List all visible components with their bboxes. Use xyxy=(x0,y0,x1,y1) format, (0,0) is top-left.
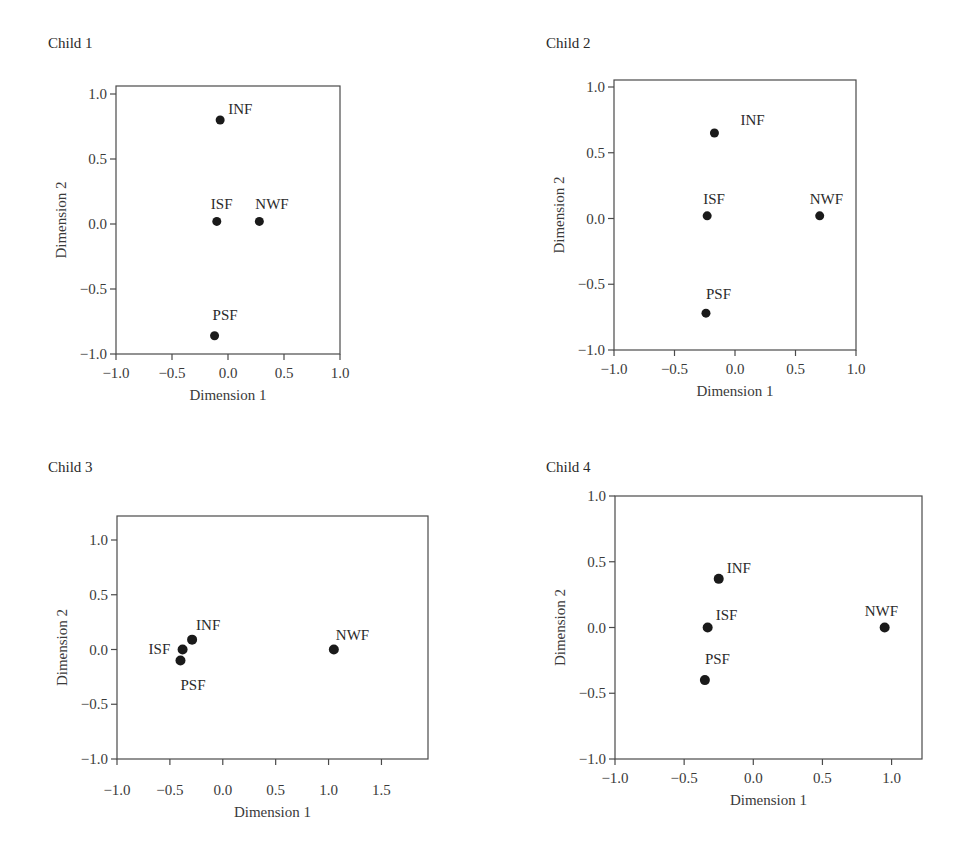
chart-panel-2: Child 2−1.0−0.50.00.51.0−1.0−0.50.00.51.… xyxy=(546,35,865,399)
panel-title: Child 1 xyxy=(48,35,93,51)
y-tick-label: 1.0 xyxy=(586,79,605,95)
data-point-inf xyxy=(710,129,719,138)
x-tick-label: 0.0 xyxy=(213,782,232,798)
point-label-isf: ISF xyxy=(703,191,725,207)
panel-title: Child 4 xyxy=(546,459,591,475)
x-tick-label: −0.5 xyxy=(671,770,698,786)
chart-panel-3: Child 3−1.0−0.50.00.51.01.5−1.0−0.50.00.… xyxy=(48,459,428,820)
data-point-nwf xyxy=(880,623,890,633)
chart-panel-1: Child 1−1.0−0.50.00.51.0−1.0−0.50.00.51.… xyxy=(48,35,349,403)
y-tick-label: 0.0 xyxy=(587,620,606,636)
data-point-nwf xyxy=(255,217,264,226)
point-label-nwf: NWF xyxy=(336,627,369,643)
point-label-inf: INF xyxy=(196,617,220,633)
point-label-isf: ISF xyxy=(149,641,171,657)
y-tick-label: −1.0 xyxy=(80,346,107,362)
x-tick-label: −0.5 xyxy=(661,361,688,377)
y-tick-label: −0.5 xyxy=(578,276,605,292)
y-tick-label: 1.0 xyxy=(88,86,107,102)
point-label-nwf: NWF xyxy=(255,196,288,212)
plot-frame xyxy=(615,496,922,759)
y-axis-label: Dimension 2 xyxy=(552,589,568,666)
data-point-isf xyxy=(178,645,188,655)
y-tick-label: 0.0 xyxy=(89,642,108,658)
data-point-nwf xyxy=(329,645,339,655)
data-point-inf xyxy=(714,574,724,584)
x-tick-label: −1.0 xyxy=(102,365,129,381)
data-point-nwf xyxy=(815,211,824,220)
x-axis-label: Dimension 1 xyxy=(189,387,266,403)
x-tick-label: 0.5 xyxy=(266,782,285,798)
point-label-nwf: NWF xyxy=(810,191,843,207)
y-tick-label: −0.5 xyxy=(80,281,107,297)
point-label-isf: ISF xyxy=(211,196,233,212)
y-tick-label: 1.0 xyxy=(587,488,606,504)
x-tick-label: −0.5 xyxy=(156,782,183,798)
x-tick-label: −1.0 xyxy=(601,770,628,786)
x-tick-label: 1.0 xyxy=(847,361,866,377)
plot-frame xyxy=(117,516,428,759)
x-tick-label: 0.0 xyxy=(726,361,745,377)
point-label-psf: PSF xyxy=(213,307,238,323)
y-tick-label: 1.0 xyxy=(89,532,108,548)
x-tick-label: 0.5 xyxy=(813,770,832,786)
x-tick-label: 1.0 xyxy=(319,782,338,798)
point-label-nwf: NWF xyxy=(865,603,898,619)
point-label-psf: PSF xyxy=(705,651,730,667)
point-label-psf: PSF xyxy=(180,677,205,693)
data-point-psf xyxy=(175,655,185,665)
y-tick-label: 0.5 xyxy=(586,145,605,161)
data-point-isf xyxy=(703,623,713,633)
figure: Child 1−1.0−0.50.00.51.0−1.0−0.50.00.51.… xyxy=(0,0,959,860)
point-label-psf: PSF xyxy=(706,286,731,302)
x-axis-label: Dimension 1 xyxy=(234,804,311,820)
x-tick-label: 1.0 xyxy=(331,365,350,381)
y-tick-label: 0.0 xyxy=(586,211,605,227)
y-tick-label: −0.5 xyxy=(81,696,108,712)
point-label-inf: INF xyxy=(740,112,764,128)
x-axis-label: Dimension 1 xyxy=(730,792,807,808)
y-axis-label: Dimension 2 xyxy=(54,609,70,686)
point-label-inf: INF xyxy=(727,560,751,576)
y-tick-label: −1.0 xyxy=(579,751,606,767)
y-tick-label: 0.0 xyxy=(88,216,107,232)
x-tick-label: 0.0 xyxy=(744,770,763,786)
x-tick-label: 1.0 xyxy=(882,770,901,786)
x-axis-label: Dimension 1 xyxy=(696,383,773,399)
y-tick-label: −0.5 xyxy=(579,685,606,701)
data-point-psf xyxy=(701,309,710,318)
x-tick-label: 0.5 xyxy=(786,361,805,377)
chart-panel-4: Child 4−1.0−0.50.00.51.0−1.0−0.50.00.51.… xyxy=(546,459,922,808)
point-label-isf: ISF xyxy=(716,607,738,623)
y-tick-label: −1.0 xyxy=(81,751,108,767)
y-tick-label: 0.5 xyxy=(89,587,108,603)
x-tick-label: 1.5 xyxy=(372,782,391,798)
x-tick-label: 0.0 xyxy=(219,365,238,381)
data-point-psf xyxy=(700,675,710,685)
x-tick-label: 0.5 xyxy=(275,365,294,381)
x-tick-label: −0.5 xyxy=(158,365,185,381)
point-label-inf: INF xyxy=(228,101,252,117)
y-tick-label: 0.5 xyxy=(88,151,107,167)
y-tick-label: 0.5 xyxy=(587,554,606,570)
x-tick-label: −1.0 xyxy=(103,782,130,798)
x-tick-label: −1.0 xyxy=(600,361,627,377)
y-axis-label: Dimension 2 xyxy=(53,181,69,258)
data-point-isf xyxy=(212,217,221,226)
panel-title: Child 2 xyxy=(546,35,591,51)
data-point-inf xyxy=(187,635,197,645)
y-tick-label: −1.0 xyxy=(578,342,605,358)
data-point-isf xyxy=(703,211,712,220)
y-axis-label: Dimension 2 xyxy=(551,176,567,253)
data-point-psf xyxy=(210,331,219,340)
data-point-inf xyxy=(216,116,225,125)
panel-title: Child 3 xyxy=(48,459,93,475)
